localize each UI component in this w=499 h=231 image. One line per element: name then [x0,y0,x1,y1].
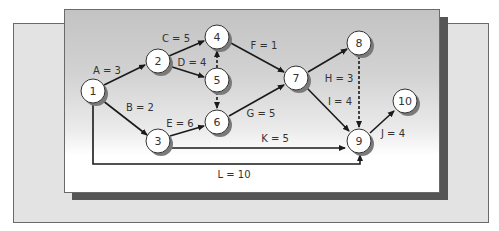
edge-h [308,49,347,72]
label-c: C = 5 [162,33,190,44]
edge-i [306,87,349,131]
label-h: H = 3 [325,73,354,84]
label-i: I = 4 [328,96,352,107]
svg-text:10: 10 [398,95,412,108]
node-4: 4 [205,25,232,52]
edge-d [169,66,204,77]
network-diagram: A = 3 B = 2 C = 5 D = 4 E = 6 F = 1 G = … [0,0,499,231]
label-l: L = 10 [217,169,250,180]
node-5: 5 [205,68,232,95]
label-b: B = 2 [126,102,154,113]
node-1: 1 [81,79,108,106]
node-3: 3 [146,129,173,156]
svg-text:9: 9 [356,135,363,148]
label-g: G = 5 [247,108,276,119]
node-6: 6 [205,110,232,137]
node-7: 7 [284,66,311,93]
svg-text:6: 6 [214,116,221,129]
label-d: D = 4 [178,57,207,68]
label-f: F = 1 [251,40,278,51]
svg-text:7: 7 [293,72,300,85]
svg-text:1: 1 [90,85,97,98]
svg-text:3: 3 [155,135,162,148]
node-9: 9 [347,129,374,156]
node-2: 2 [146,49,173,76]
svg-text:5: 5 [214,74,221,87]
node-10: 10 [393,89,420,116]
label-a: A = 3 [93,65,121,76]
svg-text:2: 2 [155,55,162,68]
label-e: E = 6 [166,118,193,129]
node-8: 8 [347,31,374,58]
label-j: J = 4 [380,128,405,139]
svg-text:8: 8 [356,37,363,50]
label-k: K = 5 [261,133,289,144]
svg-text:4: 4 [214,31,221,44]
